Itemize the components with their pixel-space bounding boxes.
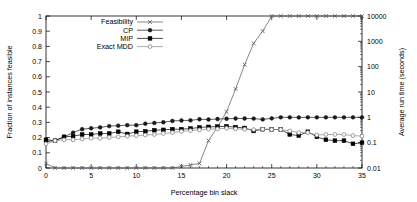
y-axis-left-ticks: 00.10.20.30.40.50.60.70.80.91 xyxy=(32,13,50,172)
y-axis-left-tick-label: 0.2 xyxy=(32,134,42,141)
y-axis-right-title: Average run time (seconds) xyxy=(397,48,406,136)
y-axis-left-tick-label: 0.1 xyxy=(32,149,42,156)
legend-swatch-feasibility xyxy=(137,20,163,24)
y-axis-right-tick-label: 1 xyxy=(367,114,371,121)
series-feasibility xyxy=(44,14,364,170)
chart-container: 05101520253035 00.10.20.30.40.50.60.70.8… xyxy=(0,0,417,202)
chart-legend: FeasibilityCPMIPExact MDD xyxy=(97,17,163,51)
x-tick-label: 10 xyxy=(132,172,140,179)
x-tick-label: 30 xyxy=(313,172,321,179)
y-axis-right-tick-label: 1000 xyxy=(367,38,383,45)
y-axis-left-tick-label: 0.3 xyxy=(32,119,42,126)
x-axis-ticks: 05101520253035 xyxy=(44,16,366,179)
y-axis-left-tick-label: 1 xyxy=(38,13,42,20)
x-tick-label: 5 xyxy=(89,172,93,179)
x-axis-title: Percentage bin slack xyxy=(171,188,238,197)
y-axis-left-title: Fraction of instances feasible xyxy=(5,45,14,138)
y-axis-left-tick-label: 0 xyxy=(38,165,42,172)
x-tick-label: 35 xyxy=(358,172,366,179)
legend-label-exact-mdd: Exact MDD xyxy=(97,42,133,51)
x-tick-label: 20 xyxy=(223,172,231,179)
y-axis-left-tick-label: 0.9 xyxy=(32,28,42,35)
line-chart: 05101520253035 00.10.20.30.40.50.60.70.8… xyxy=(0,0,417,202)
legend-swatch-mip xyxy=(137,37,163,41)
plot-frame xyxy=(46,16,362,168)
y-axis-right-tick-label: 100 xyxy=(367,63,379,70)
y-axis-left-tick-label: 0.4 xyxy=(32,104,42,111)
y-axis-left-tick-label: 0.7 xyxy=(32,58,42,65)
legend-swatch-exact-mdd xyxy=(137,45,163,49)
y-axis-left-tick-label: 0.6 xyxy=(32,73,42,80)
y-axis-right-tick-label: 0.01 xyxy=(367,165,381,172)
y-axis-right-tick-label: 0.1 xyxy=(367,139,377,146)
y-axis-right-tick-label: 10000 xyxy=(367,13,387,20)
y-axis-left-tick-label: 0.5 xyxy=(32,89,42,96)
x-tick-label: 0 xyxy=(44,172,48,179)
x-tick-label: 15 xyxy=(178,172,186,179)
x-tick-label: 25 xyxy=(268,172,276,179)
y-axis-left-tick-label: 0.8 xyxy=(32,43,42,50)
legend-swatch-cp xyxy=(137,28,163,32)
y-axis-right-tick-label: 10 xyxy=(367,89,375,96)
series-layer xyxy=(44,14,364,170)
